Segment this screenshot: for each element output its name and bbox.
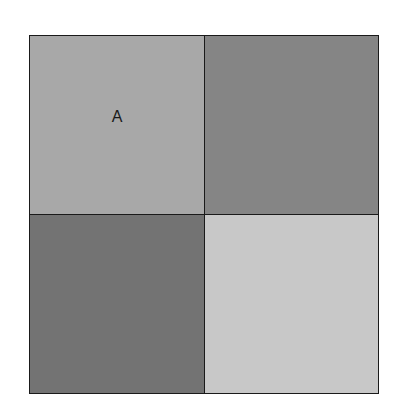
- cell-bottom-left: [30, 215, 205, 393]
- grid-diagram: A: [29, 35, 379, 394]
- cell-top-right: [205, 36, 378, 215]
- cell-top-left: A: [30, 36, 205, 215]
- cell-label-a: A: [30, 108, 204, 126]
- cell-bottom-right: [205, 215, 378, 393]
